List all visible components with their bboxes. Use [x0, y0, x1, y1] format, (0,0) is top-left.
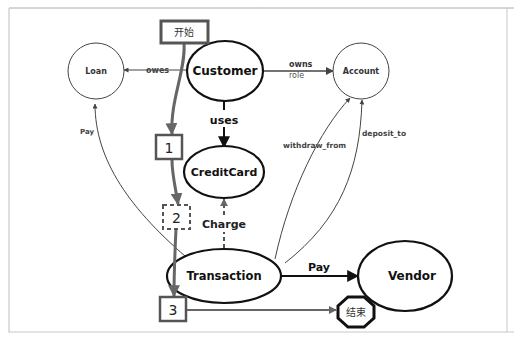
node-loan-label: Loan [85, 67, 107, 76]
flow-1-to-2 [172, 160, 178, 204]
edge-pay-loan-label: Pay [80, 128, 94, 136]
edge-pay-loan [95, 104, 192, 262]
edge-deposit-to [285, 100, 362, 263]
flow-step-1-label: 1 [165, 140, 174, 156]
node-creditcard-label: CreditCard [191, 166, 258, 179]
edge-deposit-to-label: deposit_to [362, 129, 406, 138]
flow-end-label: 结束 [346, 306, 366, 318]
node-customer-label: Customer [192, 64, 257, 78]
edge-withdraw-from [275, 98, 350, 259]
flow-step-3-label: 3 [169, 302, 178, 318]
flow-start-to-1 [172, 43, 184, 134]
edge-uses-label: uses [210, 114, 239, 127]
edge-owns-label: owns [289, 60, 313, 69]
node-transaction-label: Transaction [186, 269, 261, 283]
diagram-canvas: owes owns role Pay withdraw_from deposit… [0, 0, 514, 344]
edge-withdraw-from-label: withdraw_from [283, 141, 346, 150]
flow-start-label: 开始 [174, 26, 194, 38]
node-vendor-label: Vendor [388, 269, 436, 283]
edge-owes-label: owes [146, 66, 169, 75]
edge-pay-vendor-label: Pay [308, 261, 330, 274]
edge-charge-label: Charge [202, 218, 246, 231]
node-account-label: Account [343, 67, 380, 76]
edge-owns-sublabel: role [289, 71, 304, 80]
flow-step-2-label: 2 [172, 210, 181, 226]
